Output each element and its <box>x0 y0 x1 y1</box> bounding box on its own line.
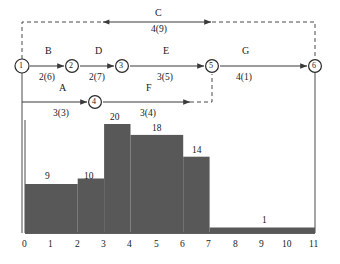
activity-g-name: G <box>242 46 249 56</box>
x-tick-label: 5 <box>154 240 159 250</box>
node-1-label: 1 <box>19 62 23 70</box>
figure-vector-layer <box>0 0 340 264</box>
activity-g-duration: 4(1) <box>236 73 252 83</box>
node-3-label: 3 <box>119 62 123 70</box>
bar-3-4 <box>104 124 130 233</box>
dummy-f-to-node5 <box>190 74 212 102</box>
x-tick-label: 10 <box>282 240 292 250</box>
x-tick-label: 11 <box>309 240 318 250</box>
activity-e-name: E <box>163 46 169 56</box>
activity-d-name: D <box>95 46 102 56</box>
node-4-label: 4 <box>92 98 96 106</box>
x-tick-label: 3 <box>101 240 106 250</box>
activity-c-duration: 4(9) <box>151 25 167 35</box>
bar-4-6 <box>131 135 184 233</box>
activity-c-name: C <box>155 8 162 18</box>
x-tick-label: 1 <box>48 240 53 250</box>
activity-a-duration: 3(3) <box>53 109 69 119</box>
x-tick-label: 6 <box>180 240 185 250</box>
activity-b-name: B <box>45 46 52 56</box>
activity-b-duration: 2(6) <box>39 73 55 83</box>
bar-7-11 <box>210 228 315 234</box>
bar-value-label: 18 <box>152 124 162 134</box>
x-tick-label: 2 <box>75 240 80 250</box>
bar-value-label: 1 <box>262 216 267 226</box>
activity-d-duration: 2(7) <box>89 73 105 83</box>
node-2-label: 2 <box>69 62 73 70</box>
x-tick-label: 8 <box>233 240 238 250</box>
activity-f-duration: 3(4) <box>140 109 156 119</box>
x-tick-label: 4 <box>127 240 132 250</box>
histogram-bars <box>25 124 315 233</box>
bar-6-7 <box>183 157 209 233</box>
x-tick-label: 0 <box>22 240 27 250</box>
bar-2-3 <box>78 179 104 234</box>
figure-canvas: 1 2 3 4 5 6 C 4(9) B 2(6) D 2(7) E 3(5) … <box>0 0 340 264</box>
bar-value-label: 9 <box>45 172 50 182</box>
activity-a-name: A <box>59 83 66 93</box>
bar-value-label: 14 <box>192 146 202 156</box>
x-tick-label: 9 <box>259 240 264 250</box>
bar-value-label: 10 <box>84 172 94 182</box>
bar-value-label: 20 <box>110 113 120 123</box>
node-5-label: 5 <box>209 62 213 70</box>
node-6-label: 6 <box>312 62 316 70</box>
x-tick-label: 7 <box>206 240 211 250</box>
activity-c-dashed-path <box>22 22 315 66</box>
bar-0-2 <box>25 184 78 233</box>
activity-f-name: F <box>146 83 152 93</box>
activity-e-duration: 3(5) <box>157 73 173 83</box>
